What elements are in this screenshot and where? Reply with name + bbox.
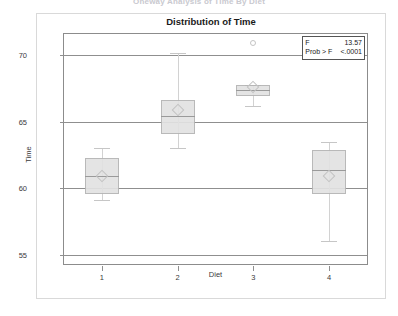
y-tick-label: 55 bbox=[7, 250, 27, 259]
whisker-cap-upper bbox=[170, 53, 186, 54]
y-axis-title: Time bbox=[24, 146, 33, 162]
f-test-row-prob: Prob > F <.0001 bbox=[305, 47, 362, 56]
y-tick-label: 65 bbox=[7, 117, 27, 126]
prob-label: Prob > F bbox=[305, 47, 332, 56]
whisker-cap-upper bbox=[94, 148, 110, 149]
y-tick-mark bbox=[60, 255, 64, 256]
plot-area: 55606570 1234 F 13.57 Prob > F <.0001 bbox=[63, 33, 368, 265]
f-value: 13.57 bbox=[344, 38, 362, 47]
whisker-cap-upper bbox=[321, 142, 337, 143]
whisker-cap-lower bbox=[245, 106, 261, 107]
chart-title: Distribution of Time bbox=[36, 16, 386, 27]
x-axis-title: Diet bbox=[63, 270, 368, 279]
f-test-legend: F 13.57 Prob > F <.0001 bbox=[302, 36, 365, 60]
f-label: F bbox=[305, 38, 309, 47]
f-test-row-f: F 13.57 bbox=[305, 38, 362, 47]
report-header: Oneway Analysis of Time By Diet bbox=[0, 0, 398, 6]
outlier-point bbox=[250, 40, 256, 46]
y-tick-label: 70 bbox=[7, 51, 27, 60]
y-tick-mark bbox=[60, 122, 64, 123]
whisker-cap-lower bbox=[170, 148, 186, 149]
y-tick-mark bbox=[60, 55, 64, 56]
prob-value: <.0001 bbox=[340, 47, 362, 56]
gridline bbox=[64, 122, 367, 123]
oneway-analysis-report: Oneway Analysis of Time By Diet Distribu… bbox=[0, 0, 398, 316]
y-tick-mark bbox=[60, 188, 64, 189]
y-tick-label: 60 bbox=[7, 184, 27, 193]
gridline bbox=[64, 255, 367, 256]
whisker-cap-lower bbox=[94, 200, 110, 201]
whisker-cap-lower bbox=[321, 241, 337, 242]
